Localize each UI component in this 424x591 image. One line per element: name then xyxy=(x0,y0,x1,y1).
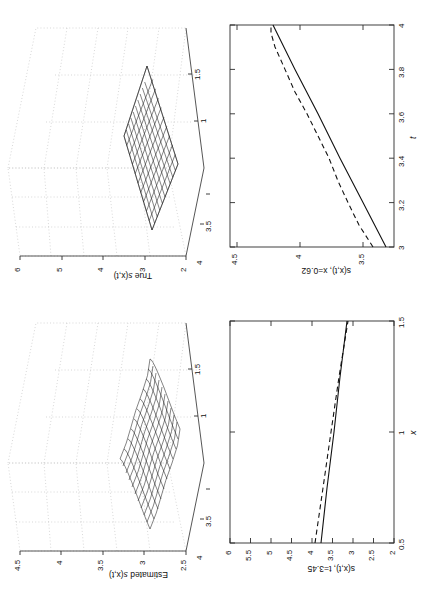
est-ztick-35: 3.5 xyxy=(97,560,105,571)
axis-ticks xyxy=(20,369,210,555)
slice-t-xtick-15: 1.5 xyxy=(398,317,406,328)
slice-x-xtick-3: 3 xyxy=(398,246,406,250)
est-xtick-15: 1.5 xyxy=(194,364,202,375)
estimated-curve xyxy=(315,321,348,543)
slice-x-xtick-36: 3.6 xyxy=(398,112,406,123)
panel-slice-fixed-t: 6 5.5 5 4.5 4 3.5 3 2.5 2 0.5 1 1.5 x s(… xyxy=(212,296,424,591)
axis-ticks xyxy=(230,25,394,247)
axis-frame xyxy=(20,323,204,551)
axes-box xyxy=(230,25,394,247)
slice-t-yaxis-label: s(x,t), t=3.45 xyxy=(308,565,355,574)
true-xtick-1: 1 xyxy=(200,119,208,123)
slice-x-xaxis-label: t xyxy=(409,136,418,139)
est-ztick-45: 4.5 xyxy=(14,560,22,571)
axes-box xyxy=(230,321,394,543)
slice-fixed-t-plot xyxy=(212,296,424,591)
est-corner-tick: 4 xyxy=(196,556,204,560)
true-ztick-2: 2 xyxy=(180,268,188,272)
slice-t-ytick-35: 3.5 xyxy=(327,550,335,561)
slice-t-ytick-4: 4 xyxy=(307,551,315,555)
true-zaxis-args: (x,t) xyxy=(114,271,129,281)
grid-box xyxy=(8,323,197,551)
est-zaxis-label: Estimated s(x,t) xyxy=(109,571,168,580)
estimated-surface-plot xyxy=(0,296,212,591)
slice-t-xaxis-label: x xyxy=(409,431,418,436)
est-xtick-1: 1 xyxy=(200,414,208,418)
est-ztick-3: 3 xyxy=(139,561,147,565)
figure-canvas: 6 5 4 3 2 4 3 3.5 0.5 1 1.5 x t True s(x… xyxy=(0,0,424,591)
slice-x-ytick-45: 4.5 xyxy=(231,254,239,265)
slice-t-ytick-5: 5 xyxy=(266,551,274,555)
slice-t-ytick-25: 2.5 xyxy=(368,550,376,561)
est-ztick-25: 2.5 xyxy=(180,560,188,571)
panel-slice-fixed-x: 4.5 4 3.5 3 3.2 3.4 3.6 3.8 4 t s(x,t), … xyxy=(212,0,424,295)
true-zaxis-prefix: True xyxy=(132,271,152,281)
panel-true-surface: 6 5 4 3 2 4 3 3.5 0.5 1 1.5 x t True s(x… xyxy=(0,0,212,296)
slice-x-xtick-34: 3.4 xyxy=(398,156,406,167)
slice-t-xtick-05: 0.5 xyxy=(398,539,406,550)
true-ztick-6: 6 xyxy=(14,268,22,272)
true-corner-tick: 4 xyxy=(196,261,204,265)
slice-t-ytick-45: 4.5 xyxy=(286,550,294,561)
est-zaxis-args: (x,t) xyxy=(109,570,124,580)
true-zaxis-s: s xyxy=(128,271,132,281)
true-curve xyxy=(273,25,386,247)
true-surface-mesh xyxy=(124,66,178,230)
slice-t-xtick-1: 1 xyxy=(398,431,406,435)
est-ttick-35: 3.5 xyxy=(205,516,212,527)
slice-t-ytick-3: 3 xyxy=(348,551,356,555)
true-ttick-35: 3.5 xyxy=(205,221,212,232)
slice-x-yaxis-label: s(x,t), x=0.62 xyxy=(302,267,351,276)
est-zaxis-prefix: Estimated xyxy=(128,570,168,580)
panel-estimated-surface: 4.5 4 3.5 3 2.5 4 3 3.5 0.5 1 1.5 x t Es… xyxy=(0,296,212,591)
true-surface-plot xyxy=(0,0,212,296)
true-ztick-5: 5 xyxy=(56,268,64,272)
true-ztick-4: 4 xyxy=(97,268,105,272)
true-zaxis-label: True s(x,t) xyxy=(114,272,152,281)
est-ztick-4: 4 xyxy=(56,561,64,565)
slice-x-xtick-32: 3.2 xyxy=(398,200,406,211)
slice-t-ytick-55: 5.5 xyxy=(245,550,253,561)
est-zaxis-s: s xyxy=(124,570,128,580)
true-xtick-15: 1.5 xyxy=(194,69,202,80)
slice-x-ytick-4: 4 xyxy=(295,255,303,259)
slice-fixed-x-plot xyxy=(212,0,424,295)
slice-x-xtick-4: 4 xyxy=(398,24,406,28)
axis-ticks xyxy=(230,321,394,543)
grid-box xyxy=(8,28,197,256)
estimated-surface-mesh xyxy=(120,359,180,529)
slice-t-ytick-2: 2 xyxy=(389,551,397,555)
estimated-curve xyxy=(271,25,373,247)
axis-frame xyxy=(20,28,204,256)
slice-x-xtick-38: 3.8 xyxy=(398,67,406,78)
axis-ticks xyxy=(20,74,210,260)
slice-x-ytick-35: 3.5 xyxy=(358,254,366,265)
slice-t-ytick-6: 6 xyxy=(225,551,233,555)
